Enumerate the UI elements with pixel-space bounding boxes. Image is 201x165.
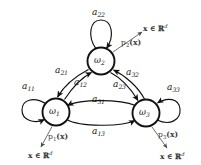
state-label-w3: ω3: [139, 108, 150, 117]
edge-a13: [67, 120, 136, 126]
transition-label-a21: a21: [55, 66, 68, 75]
hmm-state-diagram: ω1 ω2 ω3 a11 a22 a33 a21 a12 a32 a23 a31…: [0, 0, 201, 165]
transition-label-a13: a13: [92, 127, 105, 136]
transition-label-a31: a31: [92, 95, 105, 104]
emission-output-p3: x ∈ ℝd: [160, 152, 185, 161]
transition-label-a12: a12: [74, 78, 87, 87]
transition-label-a23: a23: [113, 80, 126, 89]
emission-label-p2: p2(x): [121, 39, 141, 47]
state-label-w2: ω2: [94, 56, 105, 65]
transition-label-a22: a22: [92, 8, 105, 17]
edge-a22: [91, 20, 112, 49]
transition-label-a33: a33: [167, 83, 180, 92]
edge-a33: [157, 99, 180, 122]
emission-label-p1: p1(x): [48, 133, 68, 141]
state-label-w1: ω1: [49, 107, 60, 116]
transition-label-a11: a11: [22, 82, 35, 91]
emission-output-p1: x ∈ ℝd: [28, 151, 53, 160]
transition-label-a32: a32: [126, 68, 139, 77]
emission-output-p2: x ∈ ℝd: [143, 24, 168, 33]
emission-label-p3: p3(x): [158, 131, 178, 139]
